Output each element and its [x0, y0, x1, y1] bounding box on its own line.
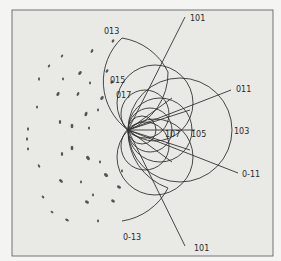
label-101-top: 101 — [190, 14, 205, 23]
label-101-bottom: 101 — [194, 244, 209, 253]
label-107: 107 — [165, 130, 180, 139]
diagram-figure: 013 101 015 017 011 107 105 103 0-11 0-1… — [0, 0, 281, 261]
label-017: 017 — [116, 91, 131, 100]
label-015: 015 — [110, 76, 125, 85]
label-105: 105 — [191, 130, 206, 139]
label-0-13: 0-13 — [123, 233, 141, 242]
label-0-11: 0-11 — [242, 170, 260, 179]
label-011: 011 — [236, 85, 251, 94]
label-103: 103 — [234, 127, 249, 136]
label-013: 013 — [104, 27, 119, 36]
